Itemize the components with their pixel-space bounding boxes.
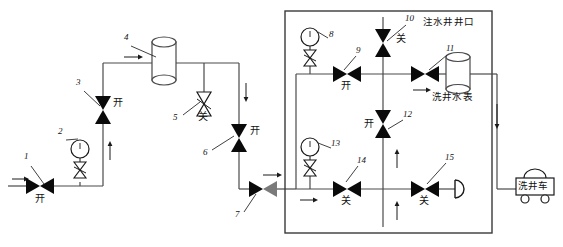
callout-number-7: 7 [235, 210, 240, 219]
leader-6 [212, 136, 234, 150]
callout-number-6: 6 [203, 148, 208, 157]
callout-number-1: 1 [24, 152, 29, 161]
callout-number-9: 9 [356, 46, 361, 55]
leader-13 [318, 143, 331, 148]
callout-number-10: 10 [405, 14, 414, 23]
valve-1-gate-valve[interactable] [26, 178, 54, 194]
flow-arrow-top-header [124, 55, 143, 60]
valve-1-state-label: 开 [35, 194, 45, 204]
flow-arrow-lower-left-box [300, 198, 318, 203]
leader-7 [244, 194, 256, 212]
flow-arrow-after-v11 [413, 88, 431, 93]
flow-arrow-riser [108, 141, 113, 160]
pipe-network-right [497, 74, 516, 189]
flow-arrow-to-v7 [263, 173, 282, 178]
callout-number-3: 3 [76, 78, 81, 87]
valve-7-gate-valve[interactable] [249, 181, 277, 197]
valve-3-state-label: 开 [113, 98, 123, 108]
callout-number-5: 5 [173, 113, 178, 122]
leader-15 [427, 163, 446, 184]
valve-12-state-label: 开 [364, 119, 374, 129]
valve-13-pressure-gauge[interactable] [301, 138, 319, 176]
valve-14-state-label: 关 [341, 196, 351, 206]
valve-9-state-label: 开 [341, 81, 351, 91]
flow-arrow-return-down [495, 104, 500, 129]
leader-1 [31, 166, 44, 184]
valve-11-gate-valve[interactable] [411, 66, 439, 82]
wash-truck-label: 洗井车 [518, 181, 549, 191]
leader-14 [346, 166, 358, 182]
valve-8-pressure-gauge[interactable] [301, 28, 319, 66]
wash-water-meter-label: 洗井水表 [432, 92, 473, 102]
callout-number-4: 4 [124, 33, 129, 42]
flow-arrow-wellhead-up-1 [395, 149, 400, 168]
wellhead-title-label: 注水井井口 [423, 17, 474, 27]
piping-schematic-svg [0, 0, 563, 247]
flow-arrow-wellhead-up-2 [395, 201, 400, 220]
pipe-network-box [296, 17, 497, 227]
valve-3-gate-valve[interactable] [95, 96, 111, 124]
piping-diagram-canvas: 1 2 3 4 5 6 7 8 9 10 11 12 13 14 15 开 开 … [0, 0, 563, 247]
leader-2 [66, 139, 78, 140]
valve-6-state-label: 开 [250, 126, 260, 136]
callout-number-11: 11 [446, 44, 454, 53]
flow-arrow-downcomer [244, 83, 249, 102]
valve-5-state-label: 关 [198, 112, 208, 122]
valve-2-pressure-gauge[interactable] [71, 140, 89, 178]
callout-number-15: 15 [445, 153, 454, 162]
callout-number-14: 14 [357, 156, 366, 165]
wash-water-meter-cylinder[interactable] [446, 53, 470, 94]
pipe-end-cap [455, 180, 464, 198]
tank-4-cylinder[interactable] [152, 37, 176, 85]
callout-number-13: 13 [331, 139, 340, 148]
valve-12-gate-valve[interactable] [375, 110, 391, 138]
callout-number-2: 2 [58, 127, 63, 136]
callout-number-8: 8 [329, 30, 334, 39]
valve-15-state-label: 关 [419, 196, 429, 206]
leader-12 [388, 120, 403, 129]
valve-6-gate-valve[interactable] [231, 124, 247, 152]
leader-9 [344, 56, 356, 70]
callout-number-12: 12 [403, 110, 412, 119]
valve-10-state-label: 关 [396, 34, 406, 44]
valve-10-gate-valve[interactable] [375, 29, 391, 57]
